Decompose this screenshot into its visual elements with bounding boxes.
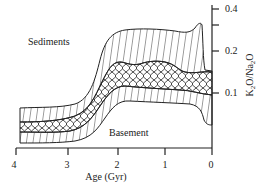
x-tick-label-1: 1 — [163, 159, 168, 170]
x-ticks — [16, 148, 212, 155]
basement-label: Basement — [109, 127, 149, 138]
y-ticks — [212, 9, 219, 93]
y-axis-title: K2O/Na2O — [244, 53, 257, 96]
x-tick-label-3: 3 — [65, 159, 70, 170]
sediments-label: Sediments — [28, 36, 70, 47]
x-tick-label-2: 2 — [115, 159, 120, 170]
y-tick-label-0.2: 0.2 — [225, 45, 238, 56]
y-tick-label-0.4: 0.4 — [225, 3, 238, 14]
x-tick-label-4: 4 — [12, 159, 17, 170]
x-tick-label-0: 0 — [209, 159, 214, 170]
y-tick-label-0.1: 0.1 — [225, 87, 238, 98]
x-axis-title: Age (Gyr) — [85, 171, 126, 183]
chart: 4 3 2 1 0 Age (Gyr) 0.4 0.2 0.1 K2O/Na2O… — [0, 0, 261, 191]
